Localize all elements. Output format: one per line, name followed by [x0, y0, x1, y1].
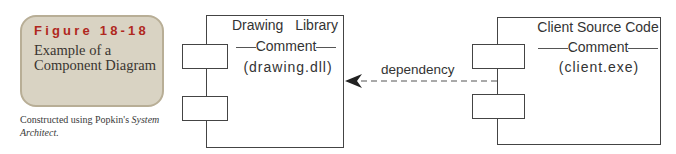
dependency-label: dependency [381, 62, 455, 77]
dependency-arrow [0, 0, 676, 154]
